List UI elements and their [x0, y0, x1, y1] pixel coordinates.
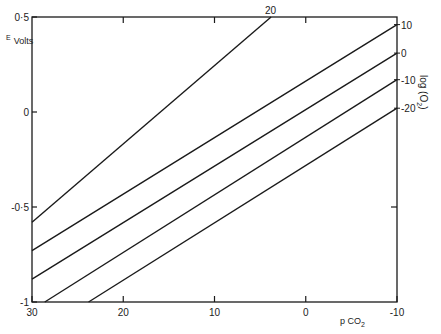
x-tick-label: -10 [390, 307, 405, 318]
series-line [89, 108, 397, 302]
series-label: -10 [401, 75, 416, 86]
y-axis-title: E Volts [6, 34, 34, 46]
right-axis-title: log (O2) [416, 75, 429, 109]
axis-labels: 0·50-0·5-13020100-1020100-10-20 [11, 5, 416, 318]
x-tick-label: 30 [26, 307, 38, 318]
series-line [32, 17, 271, 222]
series-label: 20 [265, 5, 277, 16]
series-line [32, 25, 397, 251]
data-lines [32, 17, 400, 302]
axis-ticks [32, 17, 397, 302]
x-tick-label: 20 [118, 307, 130, 318]
y-tick-label: 0·5 [15, 12, 30, 23]
series-line [32, 53, 397, 279]
x-tick-label: 10 [209, 307, 221, 318]
plot-frame [32, 17, 397, 302]
series-label: 10 [401, 20, 413, 31]
chart-area: 0·50-0·5-13020100-1020100-10-20 E Volts … [0, 0, 441, 334]
series-label: 0 [401, 48, 407, 59]
y-tick-label: -0·5 [11, 202, 29, 213]
plot-border [32, 17, 397, 302]
x-tick-label: 0 [303, 307, 309, 318]
x-axis-title: p CO2 [340, 316, 365, 328]
y-tick-label: 0 [23, 107, 29, 118]
series-label: -20 [401, 103, 416, 114]
series-line [45, 80, 397, 302]
